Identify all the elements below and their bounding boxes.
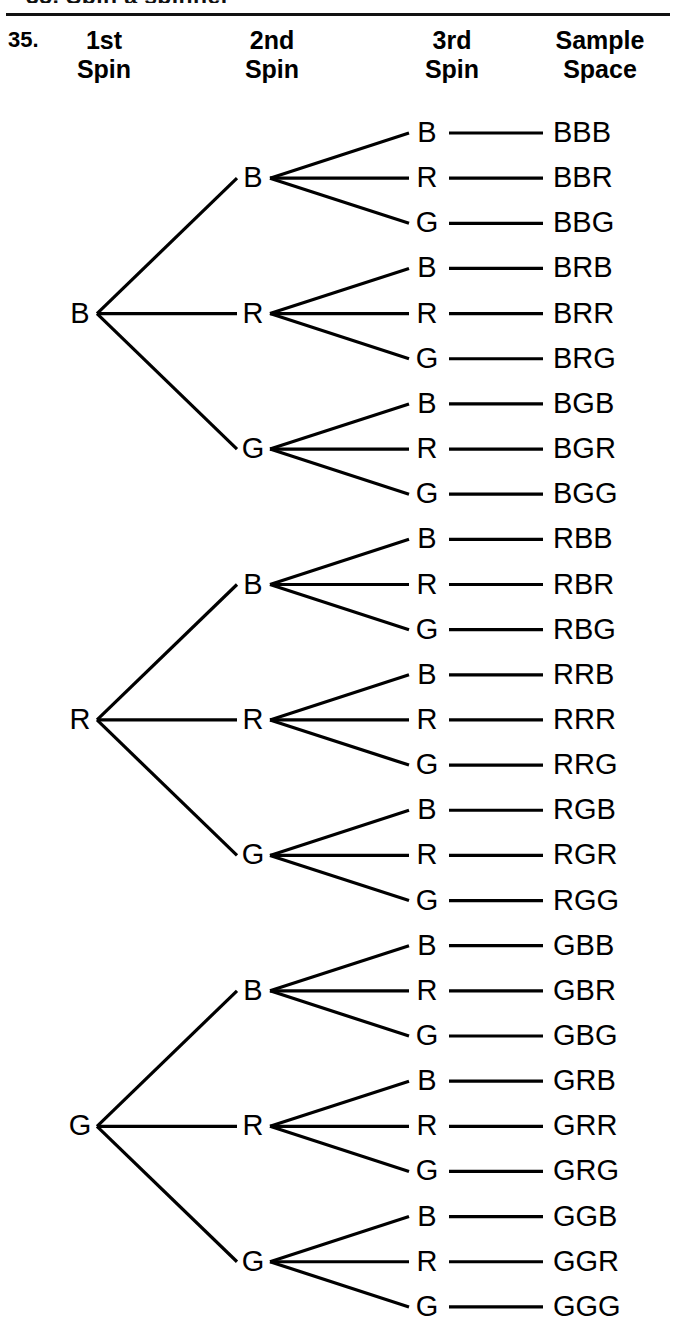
tree-node-level3: G: [412, 615, 442, 644]
sample-space-outcome: BBR: [553, 163, 613, 192]
tree-node-level2: R: [238, 1111, 268, 1140]
tree-node-level3: B: [412, 389, 442, 418]
sample-space-outcome: RRG: [553, 750, 617, 779]
tree-node-level3: G: [412, 750, 442, 779]
sample-space-outcome: GRR: [553, 1111, 617, 1140]
sample-space-outcome: RRB: [553, 660, 614, 689]
tree-node-level1: B: [65, 299, 95, 328]
tree-node-level3: R: [412, 299, 442, 328]
tree-node-level3: B: [412, 253, 442, 282]
sample-space-outcome: GGB: [553, 1202, 617, 1231]
sample-space-outcome: BGR: [553, 434, 616, 463]
sample-space-outcome: RGG: [553, 886, 619, 915]
sample-space-outcome: BRB: [553, 253, 613, 282]
sample-space-outcome: GBR: [553, 976, 616, 1005]
tree-node-level3: R: [412, 570, 442, 599]
tree-node-level2: B: [238, 163, 268, 192]
sample-space-outcome: BRR: [553, 299, 614, 328]
tree-node-level2: G: [238, 1247, 268, 1276]
sample-space-outcome: GGG: [553, 1292, 621, 1321]
sample-space-outcome: RBR: [553, 570, 614, 599]
tree-node-level3: G: [412, 208, 442, 237]
tree-node-level3: B: [412, 931, 442, 960]
sample-space-outcome: BGB: [553, 389, 614, 418]
sample-space-outcome: GBB: [553, 931, 614, 960]
tree-node-level3: R: [412, 434, 442, 463]
tree-node-level3: R: [412, 976, 442, 1005]
tree-node-level3: R: [412, 1247, 442, 1276]
sample-space-outcome: GBG: [553, 1021, 617, 1050]
tree-node-level3: R: [412, 705, 442, 734]
tree-node-level3: G: [412, 479, 442, 508]
tree-node-level3: R: [412, 163, 442, 192]
tree-node-level3: B: [412, 524, 442, 553]
tree-diagram-page: 35. Spin a spinner 35. 1st Spin 2nd Spin…: [0, 0, 676, 1339]
tree-node-level2: R: [238, 299, 268, 328]
tree-node-level3: R: [412, 1111, 442, 1140]
sample-space-outcome: BBG: [553, 208, 614, 237]
tree-node-level3: G: [412, 344, 442, 373]
tree-node-level2: G: [238, 840, 268, 869]
sample-space-outcome: BRG: [553, 344, 616, 373]
sample-space-outcome: BGG: [553, 479, 617, 508]
tree-node-level3: B: [412, 795, 442, 824]
tree-node-level3: B: [412, 118, 442, 147]
sample-space-outcome: RGR: [553, 840, 617, 869]
sample-space-outcome: BBB: [553, 118, 611, 147]
tree-node-level2: B: [238, 570, 268, 599]
tree-node-level3: G: [412, 1156, 442, 1185]
tree-node-level2: R: [238, 705, 268, 734]
tree-node-level3: B: [412, 660, 442, 689]
tree-node-level3: G: [412, 886, 442, 915]
tree-node-level3: B: [412, 1202, 442, 1231]
sample-space-outcome: RRR: [553, 705, 616, 734]
sample-space-outcome: GRG: [553, 1156, 619, 1185]
sample-space-outcome: GGR: [553, 1247, 619, 1276]
sample-space-outcome: RBG: [553, 615, 616, 644]
tree-node-level3: G: [412, 1021, 442, 1050]
tree-node-level3: G: [412, 1292, 442, 1321]
tree-node-level1: G: [65, 1111, 95, 1140]
sample-space-outcome: GRB: [553, 1066, 616, 1095]
sample-space-outcome: RGB: [553, 795, 616, 824]
tree-node-level3: B: [412, 1066, 442, 1095]
tree-node-level3: R: [412, 840, 442, 869]
tree-node-level2: G: [238, 434, 268, 463]
tree-node-level1: R: [65, 705, 95, 734]
sample-space-outcome: RBB: [553, 524, 613, 553]
tree-node-level2: B: [238, 976, 268, 1005]
